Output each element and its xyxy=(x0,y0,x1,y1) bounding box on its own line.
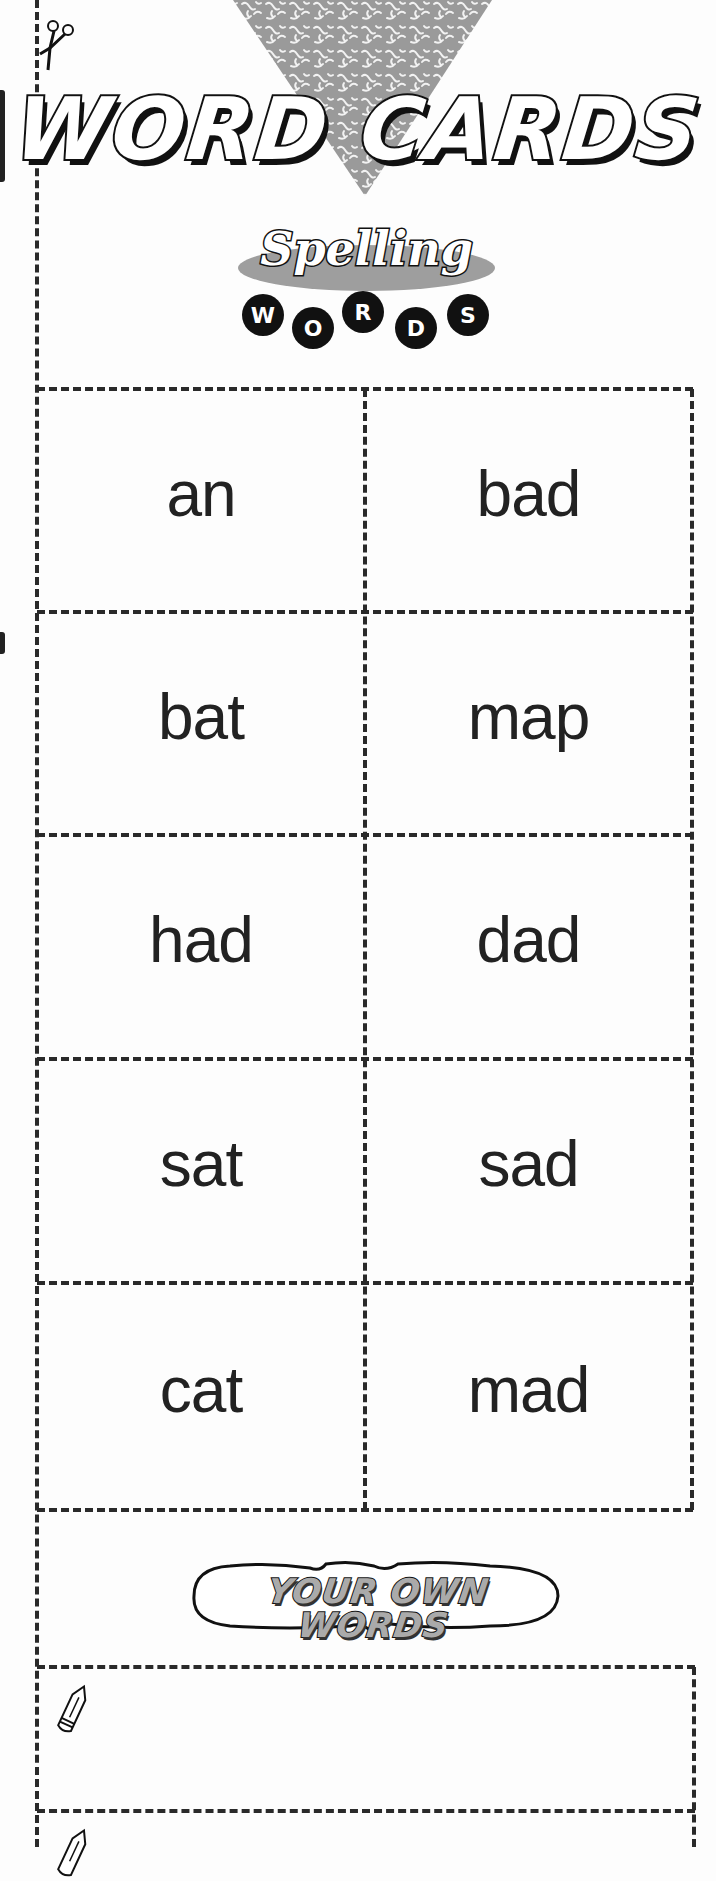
card-word: bad xyxy=(477,457,581,531)
word-card: mad xyxy=(367,1285,690,1508)
word-card: dad xyxy=(367,837,690,1057)
logo-script-text: Spelling xyxy=(238,226,495,272)
word-card: cat xyxy=(39,1285,363,1508)
card-word: an xyxy=(166,457,235,531)
card-word: bat xyxy=(158,680,244,754)
your-own-words-banner: YOUR OWN WORDS xyxy=(190,1560,562,1632)
card-word: sad xyxy=(478,1127,578,1201)
cut-line-right xyxy=(692,1667,696,1847)
card-word: map xyxy=(468,680,590,754)
word-card: an xyxy=(39,391,363,610)
card-word: mad xyxy=(468,1353,590,1427)
pencil-icon xyxy=(56,1682,90,1738)
logo-letter-circle: D xyxy=(395,307,437,349)
write-in-box[interactable] xyxy=(39,1669,691,1809)
pencil-icon xyxy=(56,1826,90,1881)
word-card: sat xyxy=(39,1061,363,1281)
logo-letter-circle: S xyxy=(447,294,489,336)
logo-letter-circle: R xyxy=(342,291,384,333)
word-card: bad xyxy=(367,391,690,610)
logo-letter-circle: W xyxy=(242,294,284,336)
scissors-icon xyxy=(36,18,76,76)
card-word: had xyxy=(149,903,253,977)
write-in-box[interactable] xyxy=(39,1813,691,1847)
word-card: map xyxy=(367,614,690,833)
page-title: WORD CARDS xyxy=(0,86,716,172)
card-word: sat xyxy=(160,1127,242,1201)
logo-letter-circle: O xyxy=(292,307,334,349)
word-card: bat xyxy=(39,614,363,833)
card-word: cat xyxy=(160,1353,242,1427)
cut-line-right xyxy=(690,389,694,1510)
banner-label: YOUR OWN WORDS xyxy=(185,1574,567,1642)
scan-edge-mark xyxy=(0,632,5,654)
word-card: sad xyxy=(367,1061,690,1281)
word-card: had xyxy=(39,837,363,1057)
card-word: dad xyxy=(477,903,581,977)
